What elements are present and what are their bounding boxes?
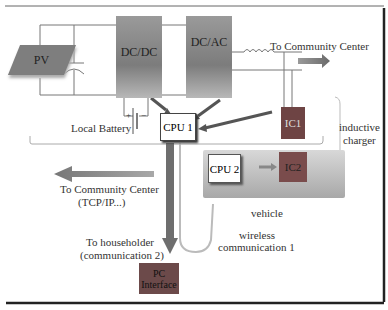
dcdc-label: DC/DC <box>121 45 158 60</box>
to-community-center-left-label-line1: To Community Center <box>60 183 159 195</box>
to-householder-label-line2: (communication 2) <box>80 249 164 261</box>
to-community-center-top-label: To Community Center <box>270 40 369 52</box>
dcdc-converter: DC/DC <box>116 16 162 98</box>
battery-minus-label: − <box>141 109 146 121</box>
to-community-center-left-label-line2: (TCP/IP...) <box>78 196 125 208</box>
dcac-inverter: DC/AC <box>186 16 232 98</box>
ic2-label: IC2 <box>285 161 302 173</box>
pc-label-line2: Interface <box>141 279 177 290</box>
battery-plus-label: + <box>126 109 131 121</box>
inductive-charger-label-line2: charger <box>343 134 376 146</box>
ic1-block: IC1 <box>281 107 305 139</box>
wireless-label-line1: wireless <box>239 229 275 241</box>
pv-label: PV <box>34 53 49 68</box>
inductive-charger-label-line1: inductive <box>339 121 380 133</box>
cpu1-label: CPU 1 <box>163 121 193 133</box>
pc-interface-block: PC Interface <box>139 263 179 294</box>
dcac-label: DC/AC <box>191 35 228 50</box>
cpu2-label: CPU 2 <box>210 163 240 175</box>
cpu2-block: CPU 2 <box>208 154 241 183</box>
diagram-canvas: PV DC/DC DC/AC CPU 1 IC1 CPU 2 IC2 PC In… <box>0 0 388 310</box>
pc-label-line1: PC <box>153 268 165 279</box>
vehicle-label: vehicle <box>251 207 283 219</box>
wireless-label-line2: communication 1 <box>218 241 295 253</box>
ic2-block: IC2 <box>279 152 307 182</box>
local-battery-label: Local Battery <box>71 122 131 134</box>
ic1-label: IC1 <box>285 117 302 129</box>
to-householder-label-line1: To householder <box>86 236 154 248</box>
cpu1-block: CPU 1 <box>160 113 196 141</box>
